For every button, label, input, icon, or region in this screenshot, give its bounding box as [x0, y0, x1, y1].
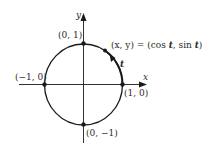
point-left: [42, 82, 46, 86]
label-top: (0, 1): [58, 30, 82, 40]
moving-point-label: (x, y) = (cos t, sin t): [111, 40, 202, 50]
y-axis-arrow-icon: [81, 13, 87, 21]
label-bottom: (0, −1): [86, 128, 118, 138]
moving-point-label-mid: , sin: [173, 40, 195, 50]
moving-point: [103, 49, 107, 53]
y-axis-label: y: [75, 10, 82, 20]
x-axis-label: x: [143, 72, 148, 82]
point-right: [120, 82, 124, 86]
arc-parameter-label: t: [120, 59, 125, 69]
moving-point-label-lhs: (x, y) = (cos: [111, 40, 169, 50]
point-bottom: [81, 122, 85, 126]
label-left: (−1, 0): [15, 72, 47, 82]
point-top: [81, 41, 85, 45]
label-right: (1, 0): [124, 88, 148, 98]
moving-point-label-end: ): [199, 40, 203, 50]
unit-circle-diagram: x y (0, 1) (−1, 0) (1, 0) (0, −1) (x, y)…: [0, 0, 208, 153]
x-axis-arrow-icon: [139, 82, 147, 88]
